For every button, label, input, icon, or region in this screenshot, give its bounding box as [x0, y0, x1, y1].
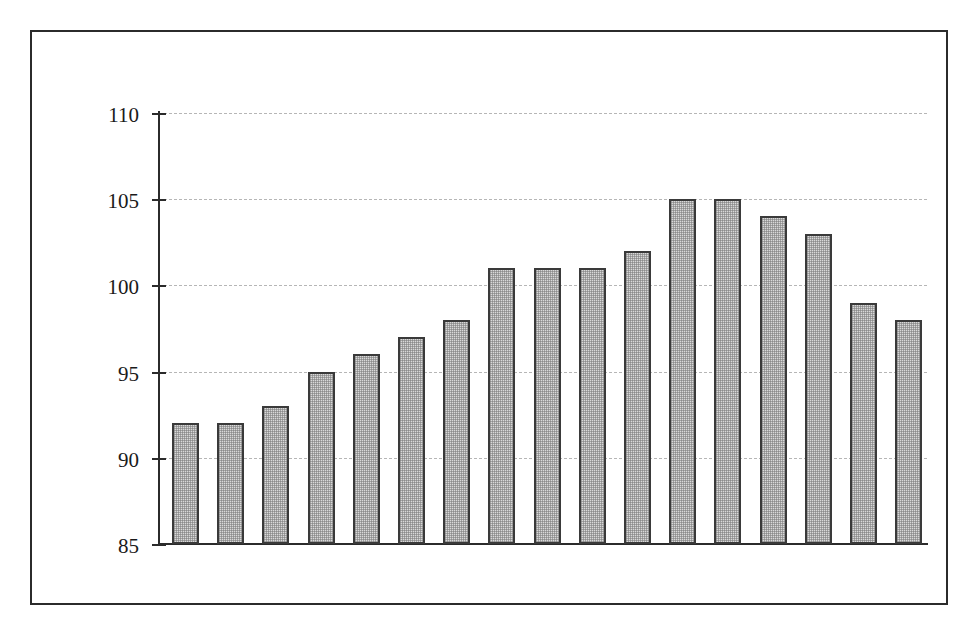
bar-2001: [443, 320, 470, 544]
bar-2005: [624, 251, 651, 544]
bar-2000: [398, 337, 425, 544]
bar-2003: [534, 268, 561, 544]
bar-2004: [579, 268, 606, 544]
bar-1998: [308, 372, 335, 544]
y-tick-label-105: 105: [108, 191, 140, 212]
bar-2010: [850, 303, 877, 544]
bar-2009: [805, 234, 832, 544]
y-tick-label-90: 90: [118, 449, 139, 470]
bar-1995: [172, 423, 199, 544]
y-tick-label-110: 110: [108, 105, 139, 126]
y-tick-85: 85: [152, 544, 166, 546]
bar-2007: [714, 199, 741, 544]
chart-figure: 859095100105110 199519961997199819992000…: [0, 0, 972, 630]
bar-2006: [669, 199, 696, 544]
bar-1996: [217, 423, 244, 544]
bar-1999: [353, 354, 380, 544]
bar-2008: [760, 216, 787, 544]
y-tick-90: 90: [152, 458, 166, 460]
bar-1997: [262, 406, 289, 544]
y-tick-110: 110: [152, 113, 166, 115]
y-tick-100: 100: [152, 285, 166, 287]
y-tick-label-85: 85: [118, 536, 139, 557]
y-tick-105: 105: [152, 199, 166, 201]
bar-2002: [488, 268, 515, 544]
gridline-105: [159, 199, 927, 200]
figure-frame: 859095100105110 199519961997199819992000…: [30, 30, 948, 605]
gridline-110: [159, 113, 927, 114]
y-tick-label-95: 95: [118, 363, 139, 384]
y-tick-95: 95: [152, 372, 166, 374]
plot-area: 859095100105110 199519961997199819992000…: [159, 113, 927, 544]
y-tick-label-100: 100: [108, 277, 140, 298]
bar-2011: [895, 320, 922, 544]
